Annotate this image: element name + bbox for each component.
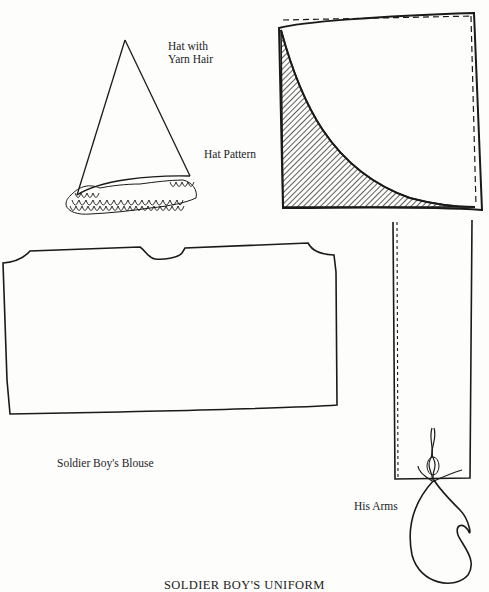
hat-label-line1: Hat with [168,40,213,53]
pattern-illustrations [0,0,489,592]
hat-with-yarn-hair-label: Hat with Yarn Hair [168,40,213,66]
hat-pattern-illustration [279,13,482,210]
arm-illustration [393,220,472,583]
hat-illustration [66,40,196,214]
hat-pattern-label: Hat Pattern [204,148,256,161]
page-title: SOLDIER BOY'S UNIFORM [164,578,325,592]
pattern-page: Hat with Yarn Hair Hat Pattern Soldier B… [0,0,489,592]
blouse-label: Soldier Boy's Blouse [57,457,154,470]
blouse-illustration [3,243,337,414]
hat-label-line2: Yarn Hair [168,53,213,66]
arms-label: His Arms [354,500,398,513]
